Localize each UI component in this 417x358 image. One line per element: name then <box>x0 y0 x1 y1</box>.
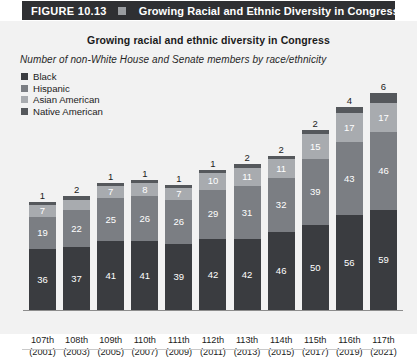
bar-column: 172639 <box>165 81 192 310</box>
x-tick-label: 117th(2021) <box>370 335 397 358</box>
bar-segment-asian-american <box>63 200 90 210</box>
bar-column: 171936 <box>29 81 56 310</box>
x-axis-line <box>23 310 403 311</box>
bar-segment-asian-american: 8 <box>131 183 158 197</box>
bar-stack: 113142 <box>234 164 261 310</box>
x-tick-line: 116th <box>336 335 363 347</box>
bar-segment-black: 56 <box>336 215 363 310</box>
bar-top-label: 4 <box>347 95 352 106</box>
bar-column: 172541 <box>97 81 124 310</box>
x-tick-line: 110th <box>131 335 158 347</box>
plot-area: 1719362223717254118264117263911029422113… <box>29 81 397 324</box>
bar-stack: 174659 <box>370 93 397 310</box>
chart-title: Growing racial and ethnic diversity in C… <box>0 34 417 46</box>
bar-column: 2113246 <box>268 81 295 310</box>
bar-segment-hispanic: 22 <box>63 210 90 247</box>
x-tick-label: 116th(2019) <box>336 335 363 358</box>
figure-banner-title: Growing Racial and Ethnic Diversity in C… <box>139 5 399 17</box>
bar-segment-asian-american: 7 <box>165 188 192 200</box>
chart-panel: Growing racial and ethnic diversity in C… <box>0 21 417 334</box>
bar-top-label: 1 <box>40 190 45 201</box>
bar-segment-hispanic: 31 <box>234 186 261 239</box>
bar-segment-black: 46 <box>268 232 295 310</box>
figure-number: FIGURE 10.13 <box>31 5 107 17</box>
bar-column: 182641 <box>131 81 158 310</box>
bar-segment-asian-american: 7 <box>97 186 124 198</box>
x-tick-line: 111th <box>165 335 192 347</box>
bar-top-label: 2 <box>313 118 318 129</box>
x-tick-label: 107th(2001) <box>29 335 56 358</box>
bar-segment-native-american <box>336 107 363 114</box>
bar-top-label: 1 <box>176 173 181 184</box>
bar-segment-native-american <box>370 93 397 103</box>
bar-stack: 71936 <box>29 202 56 310</box>
bar-stack: 153950 <box>302 130 329 310</box>
bar-segment-black: 41 <box>97 241 124 311</box>
bar-stack: 82641 <box>131 180 158 310</box>
legend-swatch-icon <box>21 73 28 80</box>
x-tick-line: 115th <box>302 335 329 347</box>
x-tick-label: 115th(2017) <box>302 335 329 358</box>
bar-stack: 2237 <box>63 196 90 310</box>
bar-segment-hispanic: 29 <box>199 190 226 239</box>
bar-column: 2113142 <box>234 81 261 310</box>
square-marker-icon <box>118 7 126 15</box>
bar-segment-hispanic: 32 <box>268 178 295 232</box>
bar-segment-asian-american: 7 <box>29 205 56 217</box>
bar-top-label: 1 <box>142 168 147 179</box>
x-tick-line: 109th <box>97 335 124 347</box>
chart-subtitle: Number of non-White House and Senate mem… <box>20 54 326 65</box>
bar-column: 22237 <box>63 81 90 310</box>
bar-column: 6174659 <box>370 81 397 310</box>
bar-segment-hispanic: 46 <box>370 132 397 210</box>
x-tick-label: 111th(2009) <box>165 335 192 358</box>
bar-segment-hispanic: 25 <box>97 198 124 240</box>
bar-stack: 72639 <box>165 185 192 310</box>
x-tick-line: 114th <box>268 335 295 347</box>
x-tick-line: 112th <box>199 335 226 347</box>
bar-segment-asian-american: 11 <box>234 168 261 187</box>
bar-top-label: 2 <box>74 184 79 195</box>
bar-top-label: 2 <box>279 144 284 155</box>
x-tick-line: 107th <box>29 335 56 347</box>
bar-segment-hispanic: 43 <box>336 142 363 215</box>
bar-segment-black: 41 <box>131 241 158 311</box>
x-tick-label: 109th(2005) <box>97 335 124 358</box>
bar-column: 2153950 <box>302 81 329 310</box>
bar-segment-black: 42 <box>234 239 261 310</box>
bar-segment-black: 37 <box>63 247 90 310</box>
x-tick-label: 112th(2011) <box>199 335 226 358</box>
bar-column: 4174356 <box>336 81 363 310</box>
legend-swatch-icon <box>21 96 28 103</box>
x-tick-label: 113th(2013) <box>234 335 261 358</box>
legend-swatch-icon <box>21 108 28 115</box>
footer-divider <box>22 349 395 350</box>
x-tick-label: 110th(2007) <box>131 335 158 358</box>
bar-segment-hispanic: 19 <box>29 217 56 249</box>
bar-segment-asian-american: 10 <box>199 173 226 190</box>
figure-banner: FIGURE 10.13 Growing Racial and Ethnic D… <box>22 1 395 20</box>
bar-segment-black: 59 <box>370 210 397 310</box>
bar-segment-hispanic: 26 <box>131 196 158 240</box>
bar-stack: 102942 <box>199 170 226 310</box>
bar-segment-hispanic: 39 <box>302 159 329 225</box>
bar-stack: 72541 <box>97 183 124 310</box>
bar-top-label: 1 <box>210 158 215 169</box>
bar-top-label: 6 <box>381 81 386 92</box>
bar-stack: 174356 <box>336 107 363 310</box>
x-tick-line: 113th <box>234 335 261 347</box>
bar-segment-hispanic: 26 <box>165 200 192 244</box>
bar-column: 1102942 <box>199 81 226 310</box>
x-tick-line: 117th <box>370 335 397 347</box>
x-axis-tick-labels: 107th(2001)108th(2003)109th(2005)110th(2… <box>29 335 397 358</box>
bar-segment-asian-american: 17 <box>336 113 363 142</box>
bar-stack: 113246 <box>268 156 295 310</box>
x-tick-line: 108th <box>63 335 90 347</box>
bar-segment-black: 42 <box>199 239 226 310</box>
legend-swatch-icon <box>21 85 28 92</box>
bar-segment-asian-american: 17 <box>370 103 397 132</box>
bar-segment-asian-american: 11 <box>268 159 295 178</box>
bar-segment-asian-american: 15 <box>302 134 329 159</box>
x-tick-label: 108th(2003) <box>63 335 90 358</box>
